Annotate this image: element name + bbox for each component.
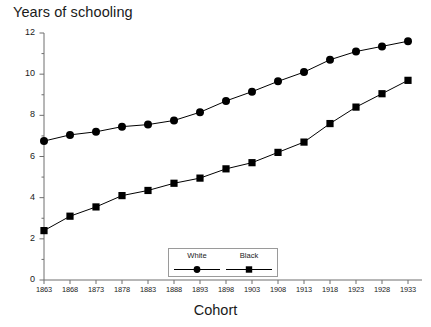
y-tick-label: 2 bbox=[19, 233, 35, 243]
data-point bbox=[352, 104, 359, 111]
y-tick-label: 12 bbox=[19, 27, 35, 37]
data-point bbox=[196, 175, 203, 182]
data-point bbox=[274, 77, 282, 85]
data-point bbox=[326, 120, 333, 127]
chart-figure: Years of schooling 024681012 18631868187… bbox=[0, 0, 431, 327]
data-point bbox=[326, 56, 334, 64]
data-point bbox=[300, 138, 307, 145]
data-point bbox=[170, 116, 178, 124]
data-point bbox=[378, 90, 385, 97]
data-point bbox=[378, 42, 386, 50]
series-white bbox=[40, 37, 412, 145]
legend-label-black: Black bbox=[223, 251, 275, 260]
data-point bbox=[222, 97, 230, 105]
y-tick-label: 4 bbox=[19, 192, 35, 202]
data-point bbox=[300, 68, 308, 76]
data-point bbox=[144, 187, 151, 194]
data-point bbox=[196, 108, 204, 116]
legend-swatch-white bbox=[174, 265, 220, 274]
data-point bbox=[222, 165, 229, 172]
data-point bbox=[352, 48, 360, 56]
data-point bbox=[274, 149, 281, 156]
data-point bbox=[66, 213, 73, 220]
data-point bbox=[40, 227, 47, 234]
legend-entry-black[interactable]: Black bbox=[223, 251, 275, 276]
data-point bbox=[248, 159, 255, 166]
data-point bbox=[40, 137, 48, 145]
axes bbox=[40, 33, 423, 284]
data-point bbox=[404, 77, 411, 84]
y-tick-label: 8 bbox=[19, 109, 35, 119]
x-tick-label: 1933 bbox=[393, 285, 423, 294]
legend-label-white: White bbox=[171, 251, 223, 260]
y-tick-label: 0 bbox=[19, 274, 35, 284]
legend-entry-white[interactable]: White bbox=[171, 251, 223, 276]
legend[interactable]: White Black bbox=[168, 248, 278, 277]
data-point bbox=[66, 131, 74, 139]
y-tick-label: 10 bbox=[19, 68, 35, 78]
legend-swatch-black bbox=[226, 265, 272, 274]
plot-area bbox=[0, 0, 431, 327]
data-point bbox=[404, 37, 412, 45]
data-point bbox=[118, 123, 126, 131]
data-point bbox=[118, 192, 125, 199]
data-point bbox=[170, 180, 177, 187]
x-axis-title: Cohort bbox=[0, 302, 431, 318]
data-point bbox=[92, 203, 99, 210]
data-point bbox=[92, 128, 100, 136]
data-series-group bbox=[40, 37, 412, 234]
series-line bbox=[44, 41, 408, 141]
data-point bbox=[144, 121, 152, 129]
data-point bbox=[248, 88, 256, 96]
y-tick-label: 6 bbox=[19, 151, 35, 161]
